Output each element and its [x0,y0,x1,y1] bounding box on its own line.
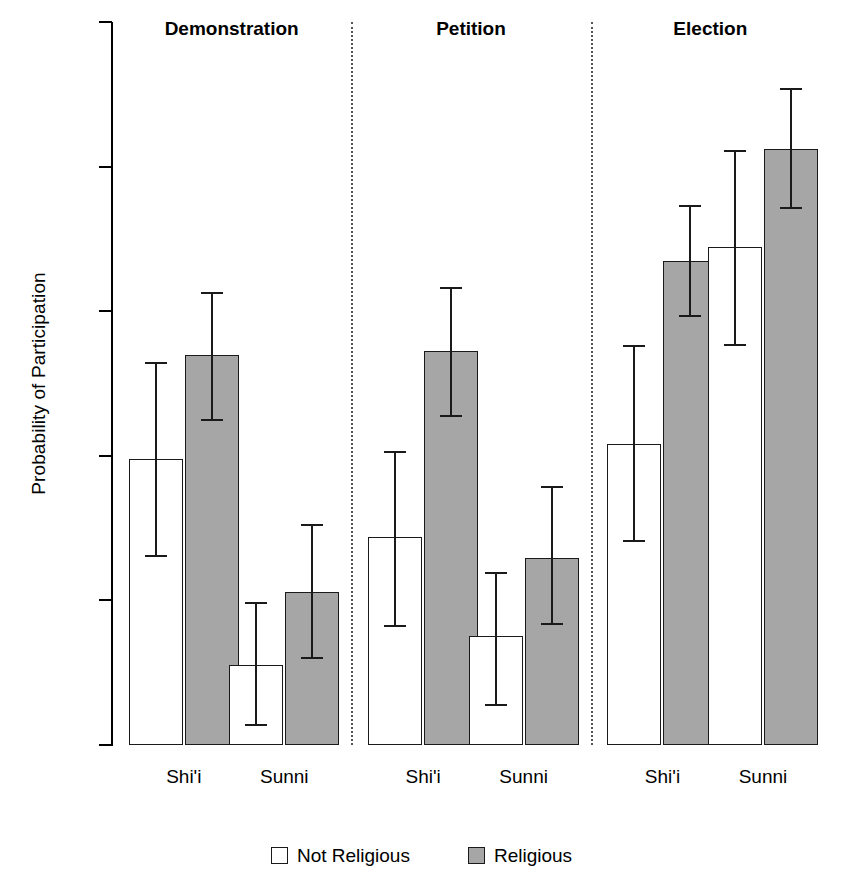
error-bar-cap-lower [145,555,167,557]
error-bar-cap-upper [245,602,267,604]
open-square-icon [271,847,288,864]
panel-title-demonstration: Demonstration [112,18,351,40]
error-bar [211,293,213,420]
y-axis-tick [99,166,112,168]
error-bar-cap-upper [780,88,802,90]
error-bar [450,288,452,416]
error-bar-cap-lower [541,623,563,625]
panel-title-petition: Petition [351,18,590,40]
error-bar [495,573,497,705]
error-bar-cap-lower [780,207,802,209]
error-bar-cap-upper [679,205,701,207]
error-bar [311,525,313,658]
legend-label: Religious [494,846,572,865]
error-bar [633,346,635,541]
x-axis-label: Sunni [454,766,594,788]
error-bar-cap-upper [384,451,406,453]
error-bar-cap-upper [440,287,462,289]
chart-figure: Probability of Participation 0.00.20.40.… [0,0,843,891]
error-bar-cap-lower [679,315,701,317]
legend-item-not-religious: Not Religious [271,846,410,865]
error-bar-cap-upper [201,292,223,294]
error-bar-cap-lower [724,344,746,346]
error-bar-cap-upper [301,524,323,526]
error-bar [790,89,792,208]
y-axis-tick [99,21,112,23]
error-bar-cap-upper [485,572,507,574]
error-bar [155,363,157,555]
y-axis-line [111,22,113,746]
panel-separator [351,22,354,745]
chart-legend: Not ReligiousReligious [0,846,843,865]
filled-square-icon [468,847,485,864]
error-bar-cap-upper [623,345,645,347]
error-bar-cap-upper [145,362,167,364]
error-bar [394,452,396,626]
error-bar-cap-upper [541,486,563,488]
error-bar [734,151,736,345]
error-bar-cap-lower [485,704,507,706]
error-bar-cap-lower [301,657,323,659]
y-axis-title: Probability of Participation [26,22,52,745]
error-bar-cap-lower [245,724,267,726]
legend-item-religious: Religious [468,846,572,865]
plot-area: DemonstrationPetitionElection [112,22,830,745]
error-bar [689,206,691,317]
error-bar-cap-lower [384,625,406,627]
error-bar-cap-lower [201,419,223,421]
y-axis-tick [99,455,112,457]
panel-title-election: Election [591,18,830,40]
y-axis-tick [99,310,112,312]
x-axis-label: Sunni [693,766,833,788]
error-bar-cap-lower [440,415,462,417]
bar-religious [764,149,818,745]
error-bar-cap-lower [623,540,645,542]
panel-separator [591,22,594,745]
y-axis-tick [99,744,112,746]
error-bar [255,603,257,724]
error-bar-cap-upper [724,150,746,152]
y-axis-tick [99,599,112,601]
x-axis-label: Sunni [214,766,354,788]
error-bar [551,487,553,624]
legend-label: Not Religious [297,846,410,865]
